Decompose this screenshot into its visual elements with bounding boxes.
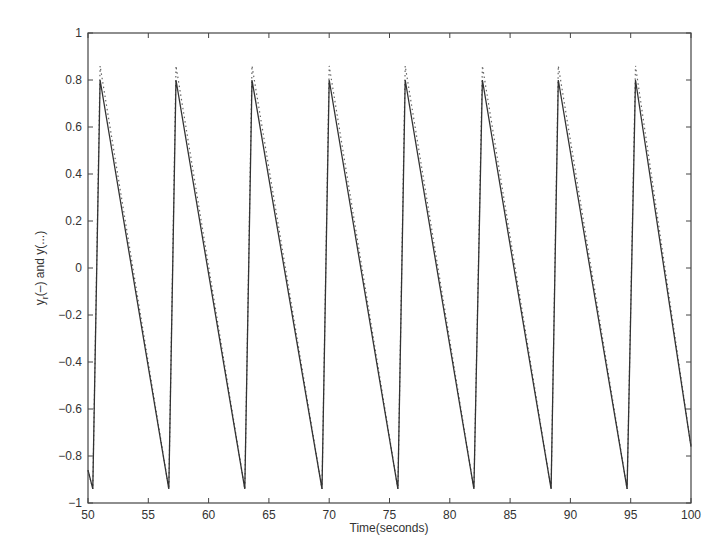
x-tick-label: 75 [383, 508, 397, 522]
series-output-dotted [88, 66, 691, 489]
x-axis-label: Time(seconds) [350, 521, 429, 535]
x-tick-label: 70 [323, 508, 337, 522]
x-tick-label: 100 [681, 508, 701, 522]
plot-series [88, 66, 691, 489]
x-tick-label: 85 [503, 508, 517, 522]
x-tick-label: 55 [142, 508, 156, 522]
x-tick-label: 90 [564, 508, 578, 522]
x-tick-label: 80 [443, 508, 457, 522]
x-tick-label: 60 [202, 508, 216, 522]
y-axis: −1−0.8−0.6−0.4−0.200.20.40.60.81 [58, 26, 691, 510]
y-tick-label: −0.2 [58, 308, 82, 322]
plot-frame [88, 33, 691, 503]
y-tick-label: 0.2 [65, 214, 82, 228]
series-reference-solid [88, 80, 691, 489]
x-tick-label: 50 [81, 508, 95, 522]
x-tick-label: 95 [624, 508, 638, 522]
y-axis-label: yr(–) and y(...) [33, 231, 50, 305]
y-tick-label: 0 [75, 261, 82, 275]
x-tick-label: 65 [262, 508, 276, 522]
y-tick-label: 0.8 [65, 73, 82, 87]
y-tick-label: 0.6 [65, 120, 82, 134]
y-tick-label: −0.4 [58, 355, 82, 369]
chart: 50556065707580859095100 −1−0.8−0.6−0.4−0… [0, 0, 727, 555]
y-tick-label: 1 [75, 26, 82, 40]
y-axis-label-rest: (–) and y(...) [33, 231, 47, 296]
y-tick-label: 0.4 [65, 167, 82, 181]
y-tick-label: −0.8 [58, 449, 82, 463]
y-tick-label: −0.6 [58, 402, 82, 416]
y-tick-label: −1 [68, 496, 82, 510]
